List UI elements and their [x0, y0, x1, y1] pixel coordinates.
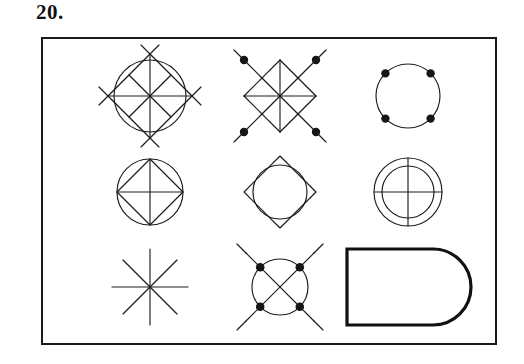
circle-dot: [381, 114, 389, 122]
item-number-label: 20.: [36, 2, 64, 23]
concentric-circles-with-cross-icon: [349, 143, 467, 241]
eight-point-asterisk-icon: [91, 235, 209, 339]
figure-cell-row1-col3[interactable]: [349, 47, 467, 145]
figure-grid: [43, 39, 495, 343]
lattice-dot: [312, 128, 320, 136]
x-cross-dot: [296, 303, 305, 312]
circle-dot: [426, 69, 434, 77]
x-cross-dot: [256, 263, 265, 272]
x-cross-dot: [296, 263, 305, 272]
circle-with-four-dots-icon: [349, 47, 467, 145]
circle-with-inscribed-diamond-and-cross-icon: [91, 143, 209, 241]
diamond-with-inscribed-circle-icon: [221, 143, 339, 241]
page-root: 20.: [0, 0, 524, 364]
figure-cell-row2-col2[interactable]: [221, 143, 339, 241]
figure-cell-row1-col2[interactable]: [221, 47, 339, 145]
d-shape-rounded-right-end-icon: [343, 235, 481, 339]
figure-cell-row3-col1[interactable]: [91, 235, 209, 339]
figure-cell-row1-col1[interactable]: [91, 47, 209, 145]
circle-dot: [381, 69, 389, 77]
diamond-lattice-with-dots-icon: [221, 47, 339, 145]
circle-with-x-and-dots-icon: [221, 235, 339, 339]
figure-frame: [41, 37, 497, 345]
x-cross-dot: [256, 303, 265, 312]
circle-dot: [426, 114, 434, 122]
circle-with-diamond-lattice-icon: [91, 47, 209, 145]
lattice-dot: [240, 128, 248, 136]
figure-cell-row3-col3[interactable]: [343, 235, 481, 339]
figure-cell-row3-col2[interactable]: [221, 235, 339, 339]
lattice-dot: [312, 56, 320, 64]
figure-cell-row2-col1[interactable]: [91, 143, 209, 241]
figure-cell-row2-col3[interactable]: [349, 143, 467, 241]
lattice-dot: [240, 56, 248, 64]
